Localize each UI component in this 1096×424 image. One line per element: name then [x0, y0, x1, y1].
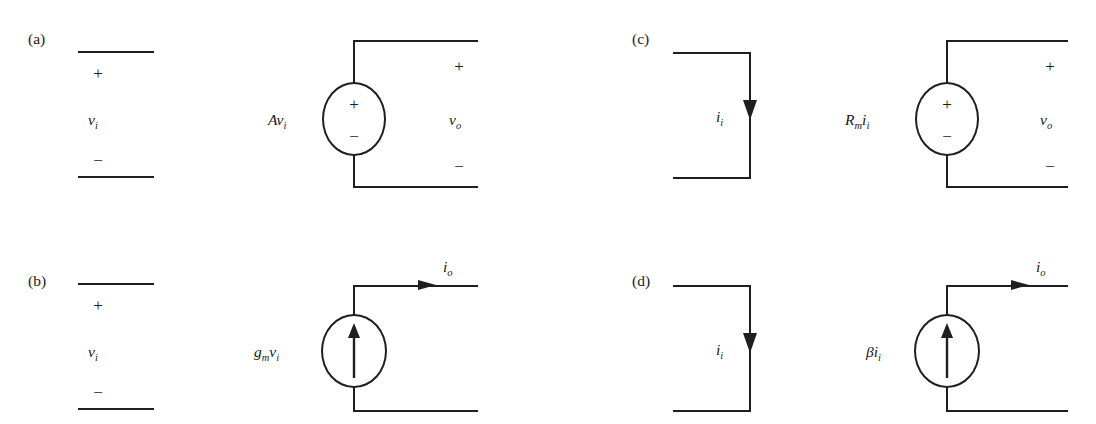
panel-a-input-top-terminal: [78, 51, 154, 53]
panel-d-label: (d): [632, 272, 650, 290]
panel-b-bottom-wire: [353, 410, 478, 412]
panel-d-source-label: βii: [866, 344, 881, 364]
panel-d-input-top-wire: [673, 285, 751, 287]
panel-c-top-wire: [946, 40, 1068, 42]
panel-c-input-current-arrowhead: [741, 100, 759, 128]
panel-c-label: (c): [632, 30, 649, 48]
panel-a-source-bottom-lead: [353, 155, 355, 187]
panel-a-bottom-wire: [353, 186, 478, 188]
panel-b-output-current-label: io: [443, 259, 453, 279]
panel-b-source-label: gmvi: [254, 344, 279, 364]
panel-d-top-wire: [946, 285, 1068, 287]
panel-a: (a) + − vi + − Avi + − vo: [0, 0, 548, 212]
panel-d-source-bottom-lead: [946, 387, 948, 411]
panel-d-output-current-arrowhead: [1011, 278, 1037, 294]
panel-a-source-top-lead: [353, 40, 355, 83]
panel-d-bottom-wire: [946, 410, 1068, 412]
panel-a-top-wire: [353, 40, 478, 42]
panel-a-input-minus-sign: −: [91, 152, 105, 169]
panel-c-output-voltage-label: vo: [1040, 112, 1052, 132]
panel-c-output-minus-sign: −: [1043, 158, 1057, 175]
panel-c-source-minus-sign: −: [939, 128, 955, 145]
panel-c-bottom-wire: [946, 186, 1068, 188]
panel-c-input-bottom-wire: [673, 177, 751, 179]
panel-b-output-current-arrowhead: [418, 278, 444, 294]
panel-b-input-bottom-terminal: [78, 408, 154, 410]
panel-a-input-voltage-label: vi: [88, 112, 98, 132]
panel-b-input-top-terminal: [78, 283, 154, 285]
circuit-figure: (a) + − vi + − Avi + − vo (b) + − vi: [0, 0, 1096, 424]
panel-d-input-current-arrowhead: [741, 333, 759, 361]
panel-b-source-up-arrow-icon: [345, 322, 363, 380]
panel-d-input-bottom-wire: [673, 410, 751, 412]
panel-a-source-minus-sign: −: [346, 128, 362, 145]
panel-c-source-bottom-lead: [946, 155, 948, 187]
panel-d-output-current-label: io: [1036, 259, 1046, 279]
panel-d-input-current-label: ii: [716, 342, 723, 362]
panel-c: (c) ii + − Rmii + − vo: [548, 0, 1096, 212]
panel-b-top-wire: [353, 285, 478, 287]
panel-d-source-top-lead: [946, 285, 948, 315]
panel-a-input-plus-sign: +: [91, 65, 105, 82]
panel-d-source-up-arrow-icon: [938, 322, 956, 380]
panel-b-source-bottom-lead: [353, 387, 355, 411]
panel-a-output-plus-sign: +: [452, 58, 466, 75]
panel-d: (d) ii io βii: [548, 212, 1096, 424]
panel-c-source-top-lead: [946, 40, 948, 83]
panel-b-input-voltage-label: vi: [88, 344, 98, 364]
panel-a-output-voltage-label: vo: [449, 112, 461, 132]
panel-c-source-label: Rmii: [845, 112, 869, 132]
panel-b-source-top-lead: [353, 285, 355, 315]
panel-a-source-plus-sign: +: [346, 96, 362, 113]
panel-c-input-current-label: ii: [716, 109, 723, 129]
panel-a-output-minus-sign: −: [452, 158, 466, 175]
panel-a-label: (a): [28, 30, 45, 48]
panel-a-source-label: Avi: [268, 112, 286, 132]
panel-c-source-plus-sign: +: [939, 96, 955, 113]
panel-b: (b) + − vi io gmvi: [0, 212, 548, 424]
panel-a-input-bottom-terminal: [78, 176, 154, 178]
panel-c-input-top-wire: [673, 52, 751, 54]
panel-c-output-plus-sign: +: [1043, 58, 1057, 75]
panel-b-input-plus-sign: +: [91, 297, 105, 314]
panel-b-input-minus-sign: −: [91, 384, 105, 401]
panel-b-label: (b): [28, 272, 46, 290]
